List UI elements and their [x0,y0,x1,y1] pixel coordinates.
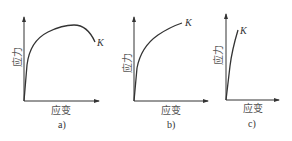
panel-caption: c) [248,118,256,130]
x-axis-label: 应变 [243,102,263,114]
x-axis-label: 应变 [161,104,181,116]
stress-strain-curve [24,25,95,101]
fracture-point-label: K [184,17,193,28]
panel-b: K 应力 应变 b) [121,17,208,131]
fracture-point-label: K [239,25,248,36]
fracture-point-label: K [96,37,105,48]
panel-c: K 应力 应变 c) [212,14,279,130]
y-axis-label: 应力 [11,47,23,67]
panel-caption: b) [167,119,175,131]
stress-strain-figure: K 应力 应变 a) K 应力 应变 b) K 应力 应变 c) [0,0,292,141]
x-axis-label: 应变 [51,104,71,116]
stress-strain-curve [226,30,238,100]
panel-caption: a) [58,119,66,131]
panel-a: K 应力 应变 a) [11,17,105,131]
stress-strain-curve [134,23,182,101]
y-axis-label: 应力 [212,45,224,65]
y-axis-label: 应力 [121,53,133,73]
